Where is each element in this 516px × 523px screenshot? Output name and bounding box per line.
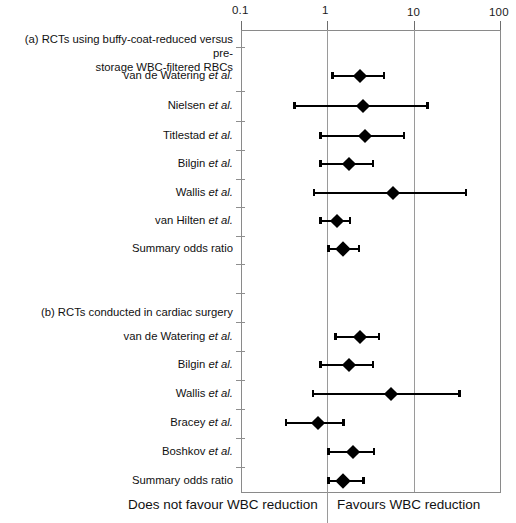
summary-odds-ratio-marker (335, 241, 351, 257)
ci-cap-low (293, 102, 296, 109)
row-tick-10 (236, 351, 245, 352)
section-heading-a-line1: (a) RCTs using buffy-coat-reduced versus… (8, 32, 233, 60)
study-name-suffix: et al. (209, 387, 234, 399)
study-row-label: Titlestad et al. (163, 129, 233, 142)
study-row-label: Wallis et al. (176, 387, 233, 400)
odds-ratio-marker (311, 416, 325, 430)
study-name-suffix: et al. (209, 330, 234, 342)
study-name-suffix: et al. (209, 214, 234, 226)
ci-cap-high (403, 132, 406, 139)
study-name: Summary odds ratio (132, 474, 233, 486)
ci-cap-high (383, 72, 386, 79)
row-tick-8 (236, 293, 245, 294)
row-tick-14 (236, 467, 245, 468)
row-tick-12 (236, 409, 245, 410)
study-row-label: Nielsen et al. (168, 99, 233, 112)
null-line-extension (327, 492, 328, 523)
summary-row-label: Summary odds ratio (132, 242, 233, 255)
ci-cap-low (327, 477, 330, 484)
study-name: Titlestad (163, 129, 205, 141)
study-row-label: Bracey et al. (170, 416, 233, 429)
axis-tick-3 (500, 21, 501, 30)
row-tick-6 (236, 236, 245, 237)
study-name: Nielsen (168, 99, 206, 111)
footer-right-label: Favours WBC reduction (337, 497, 480, 512)
forest-plot-figure: 0.1 1 10 100 (a) RCTs using buffy-coat-r… (0, 0, 516, 523)
study-row-label: van de Watering et al. (124, 330, 233, 343)
study-name-suffix: et al. (209, 186, 234, 198)
study-name: Bilgin (178, 358, 206, 370)
odds-ratio-marker (353, 69, 367, 83)
ci-cap-low (313, 189, 316, 196)
ci-cap-high (426, 102, 429, 109)
odds-ratio-marker (330, 214, 344, 228)
ci-cap-high (372, 361, 375, 368)
axis-tick-1 (327, 21, 328, 30)
ci-cap-low (327, 245, 330, 252)
study-name-suffix: et al. (209, 358, 234, 370)
ci-cap-low (319, 132, 322, 139)
row-tick-11 (236, 380, 245, 381)
summary-row-label: Summary odds ratio (132, 474, 233, 487)
study-name-suffix: et al. (209, 445, 234, 457)
study-name-suffix: et al. (209, 416, 234, 428)
section-heading-b-line1: (b) RCTs conducted in cardiac surgery (8, 305, 233, 319)
study-name-suffix: et al. (209, 129, 234, 141)
ci-cap-low (319, 361, 322, 368)
ci-cap-high (349, 217, 352, 224)
study-row-label: Bilgin et al. (178, 358, 233, 371)
ci-cap-low (319, 217, 322, 224)
axis-tick-label-3: 100 (489, 6, 509, 18)
ci-cap-high (378, 333, 381, 340)
ci-cap-low (312, 390, 315, 397)
study-name: van de Watering (124, 69, 206, 81)
plot-left-spine (241, 30, 242, 492)
axis-tick-0 (241, 21, 242, 30)
plot-right-spine (500, 30, 501, 492)
row-tick-13 (236, 438, 245, 439)
ci-cap-high (373, 448, 376, 455)
study-name: Summary odds ratio (132, 242, 233, 254)
section-heading-a: (a) RCTs using buffy-coat-reduced versus… (8, 32, 233, 74)
ci-cap-high (458, 390, 461, 397)
row-tick-1 (236, 91, 245, 92)
ci-cap-high (372, 160, 375, 167)
odds-ratio-marker (383, 387, 397, 401)
study-row-label: Boshkov et al. (162, 445, 233, 458)
row-tick-4 (236, 179, 245, 180)
axis-tick-2 (414, 21, 415, 30)
section-heading-b: (b) RCTs conducted in cardiac surgery (8, 305, 233, 319)
plot-bottom-rule (241, 492, 501, 493)
ci-cap-low (331, 72, 334, 79)
ci-cap-low (319, 160, 322, 167)
study-name: Wallis (176, 186, 206, 198)
odds-ratio-marker (386, 186, 400, 200)
row-tick-3 (236, 150, 245, 151)
study-name: Wallis (176, 387, 206, 399)
ci-cap-high (465, 189, 468, 196)
footer-left-label: Does not favour WBC reduction (128, 497, 318, 512)
summary-odds-ratio-marker (335, 473, 351, 489)
study-name-suffix: et al. (209, 157, 234, 169)
study-name: Bilgin (178, 157, 206, 169)
study-row-label: Wallis et al. (176, 186, 233, 199)
odds-ratio-marker (357, 129, 371, 143)
study-row-label: van de Watering et al. (124, 69, 233, 82)
study-name: van Hilten (155, 214, 205, 226)
ci-cap-high (342, 419, 345, 426)
axis-tick-label-0: 0.1 (232, 4, 249, 16)
row-tick-5 (236, 207, 245, 208)
ci-cap-low (334, 333, 337, 340)
study-name: van de Watering (124, 330, 206, 342)
study-row-label: Bilgin et al. (178, 157, 233, 170)
plot-top-rule (241, 30, 501, 31)
study-row-label: van Hilten et al. (155, 214, 233, 227)
odds-ratio-marker (356, 99, 370, 113)
row-tick-2 (236, 121, 245, 122)
axis-tick-label-2: 10 (407, 6, 420, 18)
ci-cap-high (358, 245, 361, 252)
study-name-suffix: et al. (209, 69, 234, 81)
odds-ratio-marker (342, 358, 356, 372)
ci-cap-high (362, 477, 365, 484)
odds-ratio-marker (353, 330, 367, 344)
